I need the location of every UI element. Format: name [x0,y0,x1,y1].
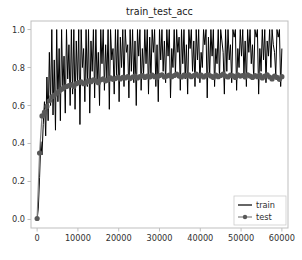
y-tick-label: 0.2 [12,176,25,186]
x-tick-label: 30000 [146,233,172,243]
legend-label-test: test [256,212,273,222]
x-tick-label: 50000 [228,233,254,243]
data-point [42,110,47,115]
y-tick-label: 0.0 [12,214,25,224]
x-tick-label: 40000 [187,233,213,243]
legend-marker-test [243,215,247,219]
legend-label-train: train [256,200,275,210]
chart-title: train_test_acc [126,6,193,18]
x-tick-label: 60000 [269,233,295,243]
data-point [279,74,284,79]
chart-legend: train test [234,196,286,225]
data-point [37,150,42,155]
x-tick-label: 10000 [65,233,91,243]
matplotlib-figure: 0100002000030000400005000060000 0.00.20.… [0,0,302,260]
x-tick-label: 0 [35,233,40,243]
y-tick-label: 1.0 [12,25,25,35]
x-tick-label: 20000 [106,233,132,243]
y-tick-label: 0.8 [12,63,25,73]
data-point [44,104,49,109]
y-tick-label: 0.6 [12,101,25,111]
data-point [35,216,40,221]
y-tick-label: 0.4 [12,138,25,148]
train-test-accuracy-chart: 0100002000030000400005000060000 0.00.20.… [0,0,302,260]
